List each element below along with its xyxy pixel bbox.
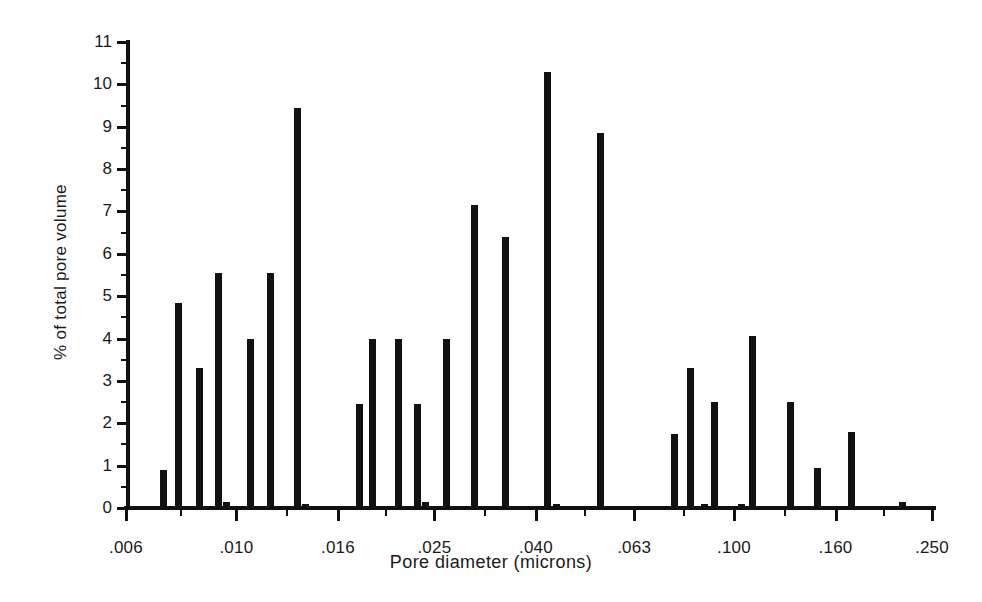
- x-tick-minor: [180, 508, 182, 516]
- bar: [247, 339, 254, 508]
- bar: [160, 470, 167, 508]
- bar: [899, 502, 906, 508]
- x-axis-title: Pore diameter (microns): [0, 552, 982, 573]
- x-tick-major: [633, 508, 636, 521]
- x-tick-minor: [385, 508, 387, 516]
- bar: [687, 368, 694, 508]
- bar: [738, 504, 745, 508]
- y-tick-label: 8: [82, 160, 112, 177]
- y-tick-minor: [121, 486, 129, 488]
- y-axis-title: % of total pore volume: [51, 107, 71, 437]
- y-tick-label: 9: [82, 118, 112, 135]
- y-tick-minor: [121, 232, 129, 234]
- x-tick-major: [337, 508, 340, 521]
- y-tick-major: [117, 41, 130, 44]
- bar: [223, 502, 230, 508]
- y-tick-major: [117, 126, 130, 129]
- x-tick-minor: [784, 508, 786, 516]
- bar: [267, 273, 274, 508]
- bar: [597, 133, 604, 508]
- bar: [645, 506, 652, 508]
- bar: [769, 506, 776, 508]
- x-tick-minor: [584, 508, 586, 516]
- x-tick-major: [125, 508, 128, 521]
- bar: [711, 402, 718, 508]
- y-tick-label: 10: [82, 75, 112, 92]
- bar: [701, 504, 708, 508]
- y-tick-major: [117, 83, 130, 86]
- chart-figure: % of total pore volume 01234567891011 .0…: [0, 0, 982, 602]
- bar: [787, 402, 794, 508]
- y-tick-major: [117, 507, 130, 510]
- x-tick-major: [235, 508, 238, 521]
- x-tick-major: [535, 508, 538, 521]
- y-tick-label: 5: [82, 287, 112, 304]
- y-tick-major: [117, 422, 130, 425]
- y-tick-label: 11: [82, 33, 112, 50]
- bar: [302, 504, 309, 508]
- x-tick-minor: [484, 508, 486, 516]
- bar: [553, 504, 560, 508]
- x-tick-major: [931, 508, 934, 521]
- y-tick-major: [117, 465, 130, 468]
- x-tick-minor: [883, 508, 885, 516]
- bar: [294, 108, 301, 508]
- y-tick-minor: [121, 359, 129, 361]
- y-tick-minor: [121, 147, 129, 149]
- y-tick-major: [117, 168, 130, 171]
- y-tick-major: [117, 380, 130, 383]
- y-tick-minor: [121, 401, 129, 403]
- bar: [215, 273, 222, 508]
- y-tick-major: [117, 210, 130, 213]
- bar: [544, 72, 551, 508]
- y-tick-minor: [121, 274, 129, 276]
- y-tick-label: 6: [82, 245, 112, 262]
- bar: [356, 404, 363, 508]
- y-tick-minor: [121, 62, 129, 64]
- x-tick-minor: [683, 508, 685, 516]
- bar: [395, 339, 402, 508]
- y-tick-major: [117, 338, 130, 341]
- bar: [196, 368, 203, 508]
- bar: [443, 339, 450, 508]
- y-tick-label: 1: [82, 457, 112, 474]
- x-tick-major: [835, 508, 838, 521]
- x-tick-minor: [286, 508, 288, 516]
- bar: [369, 339, 376, 508]
- x-tick-major: [433, 508, 436, 521]
- bar: [175, 303, 182, 508]
- y-tick-label: 4: [82, 330, 112, 347]
- bar: [671, 434, 678, 508]
- bar: [848, 432, 855, 508]
- bar: [749, 336, 756, 508]
- y-tick-label: 3: [82, 372, 112, 389]
- plot-area: 01234567891011 .006.010.016.025.040.063.…: [126, 42, 932, 508]
- y-tick-major: [117, 295, 130, 298]
- y-tick-label: 0: [82, 499, 112, 516]
- y-tick-minor: [121, 316, 129, 318]
- y-tick-minor: [121, 443, 129, 445]
- bar: [471, 205, 478, 508]
- bar: [814, 468, 821, 508]
- y-tick-minor: [121, 105, 129, 107]
- y-tick-label: 7: [82, 202, 112, 219]
- x-tick-major: [733, 508, 736, 521]
- bar: [422, 502, 429, 508]
- y-tick-label: 2: [82, 414, 112, 431]
- y-tick-minor: [121, 189, 129, 191]
- bar: [502, 237, 509, 508]
- bar: [414, 404, 421, 508]
- y-tick-major: [117, 253, 130, 256]
